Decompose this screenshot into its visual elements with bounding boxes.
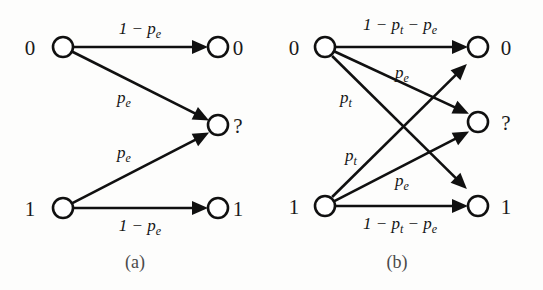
- edge-0-to-0-label: 1 − pt − pe: [363, 15, 438, 37]
- panel-a-input-labels: 01: [25, 36, 36, 221]
- panel-a-input-label-0: 0: [25, 36, 36, 60]
- panel-a-output-node-erasure[interactable]: [208, 115, 228, 135]
- edge-1-to-1-label: 1 − pt − pe: [363, 214, 438, 236]
- panel-b: 1 − pt − pepeptptpe1 − pt − pe010?1(b): [289, 15, 512, 273]
- panel-a-output-label-2: 1: [233, 197, 244, 221]
- erasure-channel-figure: 1 − pepepe1 − pe010?1(a)1 − pt − pepeptp…: [0, 0, 543, 290]
- panel-b-caption: (b): [387, 252, 408, 273]
- panel-a-output-label-1: ?: [233, 114, 242, 138]
- panel-b-input-node-1[interactable]: [315, 196, 335, 216]
- edge-1-to-erasure-label: pe: [394, 171, 410, 193]
- edge-0-to-erasure-line: [72, 51, 198, 114]
- panel-a-output-node-0[interactable]: [208, 37, 228, 57]
- edge-1-to-erasure-line: [72, 139, 198, 204]
- panel-a-output-labels: 0?1: [233, 36, 244, 221]
- panel-b-output-node-0[interactable]: [468, 37, 488, 57]
- panel-a-edge-1-to-erasure[interactable]: [72, 133, 209, 204]
- panel-a-input-label-1: 1: [25, 197, 36, 221]
- edge-0-to-1-label: pt: [339, 88, 353, 110]
- panel-b-output-node-1[interactable]: [468, 196, 488, 216]
- panel-b-output-node-erasure[interactable]: [468, 112, 488, 132]
- panel-a-nodes: [53, 37, 228, 218]
- panel-a-input-node-0[interactable]: [53, 37, 73, 57]
- panel-b-input-node-0[interactable]: [315, 37, 335, 57]
- panel-b-output-label-2: 1: [501, 195, 512, 219]
- edge-1-to-0-label: pt: [344, 146, 358, 168]
- panel-a-output-label-0: 0: [233, 36, 244, 60]
- edge-0-to-erasure-label: pe: [116, 88, 132, 110]
- panel-a-edges: [72, 40, 209, 215]
- panel-a-edge-0-to-0[interactable]: [73, 40, 208, 54]
- diagram-render-root: 1 − pepepe1 − pe010?1(a)1 − pt − pepeptp…: [25, 15, 512, 273]
- panel-a-input-node-1[interactable]: [53, 198, 73, 218]
- panel-a: 1 − pepepe1 − pe010?1(a): [25, 19, 244, 273]
- edge-0-to-erasure-label: pe: [394, 63, 410, 85]
- panel-b-output-label-0: 0: [501, 36, 512, 60]
- panel-b-output-labels: 0?1: [501, 36, 512, 219]
- edge-1-to-1-arrowhead: [452, 199, 468, 213]
- channel-diagram-svg: 1 − pepepe1 − pe010?1(a)1 − pt − pepeptp…: [0, 0, 543, 290]
- edge-0-to-0-arrowhead: [452, 40, 468, 54]
- panel-b-edge-0-to-0[interactable]: [335, 40, 468, 54]
- panel-b-input-label-0: 0: [289, 36, 300, 60]
- panel-b-input-labels: 01: [289, 36, 300, 219]
- edge-0-to-0-arrowhead: [192, 40, 208, 54]
- edge-1-to-erasure-label: pe: [116, 143, 132, 165]
- panel-a-output-node-1[interactable]: [208, 198, 228, 218]
- edge-1-to-1-arrowhead: [192, 201, 208, 215]
- panel-a-edge-0-to-erasure[interactable]: [72, 51, 209, 120]
- panel-a-edge-1-to-1[interactable]: [73, 201, 208, 215]
- edge-1-to-1-label: 1 − pe: [119, 216, 162, 238]
- panel-b-edge-1-to-1[interactable]: [335, 199, 468, 213]
- panel-b-output-label-1: ?: [501, 111, 510, 135]
- panel-b-input-label-1: 1: [289, 195, 300, 219]
- panel-a-edge-labels: 1 − pepepe1 − pe: [116, 19, 162, 238]
- edge-0-to-0-label: 1 − pe: [119, 19, 162, 41]
- panel-a-caption: (a): [125, 252, 145, 273]
